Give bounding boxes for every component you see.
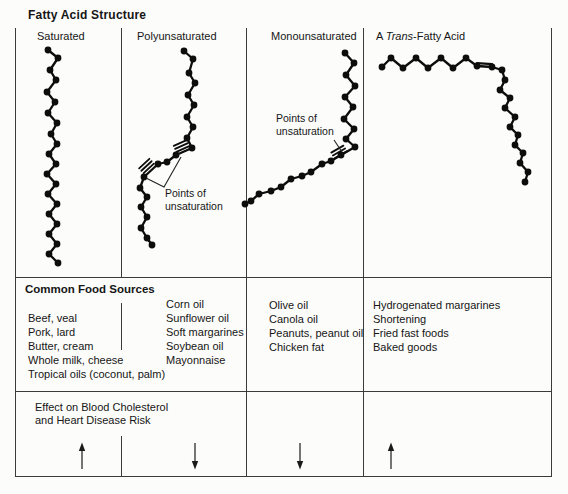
food-item: Whole milk, cheese bbox=[28, 353, 165, 367]
saturated-chain bbox=[44, 47, 62, 267]
food-sources-heading: Common Food Sources bbox=[25, 283, 155, 295]
food-item: Fried fast foods bbox=[373, 326, 500, 340]
food-item: Shortening bbox=[373, 312, 500, 326]
column-header-monounsaturated: Monounsaturated bbox=[271, 30, 357, 42]
food-item: Butter, cream bbox=[28, 339, 165, 353]
trans-chain bbox=[379, 55, 532, 186]
food-item: Pork, lard bbox=[28, 325, 165, 339]
food-list-polyunsaturated: Corn oilSunflower oilSoft margarinesSoyb… bbox=[166, 297, 244, 367]
effect-arrow-up-icon bbox=[79, 443, 85, 470]
polyunsaturated-chain bbox=[137, 48, 199, 249]
column-header-trans-fatty-acid: A Trans-Fatty Acid bbox=[376, 30, 465, 42]
effect-arrow-down-icon bbox=[192, 443, 198, 470]
food-list-trans: Hydrogenated margarinesShorteningFried f… bbox=[373, 298, 500, 354]
effect-arrow-down-icon bbox=[297, 443, 303, 470]
poly-unsaturation-label-line1: Points of bbox=[165, 187, 223, 200]
food-item: Soft margarines bbox=[166, 325, 244, 339]
fatty-acid-figure: Fatty Acid Structure Saturated Polyunsat… bbox=[0, 0, 568, 494]
poly-unsaturation-label-line2: unsaturation bbox=[165, 200, 223, 213]
food-item: Hydrogenated margarines bbox=[373, 298, 500, 312]
food-item: Peanuts, peanut oil bbox=[269, 326, 363, 340]
food-item: Canola oil bbox=[269, 312, 363, 326]
effect-arrow-up-icon bbox=[388, 443, 394, 470]
food-item: Chicken fat bbox=[269, 340, 363, 354]
food-item: Sunflower oil bbox=[166, 311, 244, 325]
column-header-polyunsaturated: Polyunsaturated bbox=[137, 30, 217, 42]
food-list-monounsaturated: Olive oilCanola oilPeanuts, peanut oilCh… bbox=[269, 298, 363, 354]
trans-header-prefix: A bbox=[376, 30, 386, 42]
figure-title: Fatty Acid Structure bbox=[28, 8, 146, 22]
mono-unsaturation-label: Points of unsaturation bbox=[276, 112, 334, 137]
trans-header-suffix: -Fatty Acid bbox=[413, 30, 465, 42]
food-item: Olive oil bbox=[269, 298, 363, 312]
food-item: Baked goods bbox=[373, 340, 500, 354]
food-list-saturated: Beef, vealPork, lardButter, creamWhole m… bbox=[28, 311, 165, 381]
column-header-saturated: Saturated bbox=[37, 30, 85, 42]
food-item: Beef, veal bbox=[28, 311, 165, 325]
food-item: Mayonnaise bbox=[166, 353, 244, 367]
food-item: Corn oil bbox=[166, 297, 244, 311]
effect-label: Effect on Blood Cholesterol and Heart Di… bbox=[35, 401, 168, 426]
effect-label-line2: and Heart Disease Risk bbox=[35, 414, 168, 427]
poly-unsaturation-label: Points of unsaturation bbox=[165, 187, 223, 212]
effect-label-line1: Effect on Blood Cholesterol bbox=[35, 401, 168, 414]
mono-unsaturation-label-line1: Points of bbox=[276, 112, 334, 125]
food-item: Tropical oils (coconut, palm) bbox=[28, 367, 165, 381]
food-item: Soybean oil bbox=[166, 339, 244, 353]
trans-header-italic: Trans bbox=[386, 30, 413, 42]
mono-unsaturation-label-line2: unsaturation bbox=[276, 125, 334, 138]
